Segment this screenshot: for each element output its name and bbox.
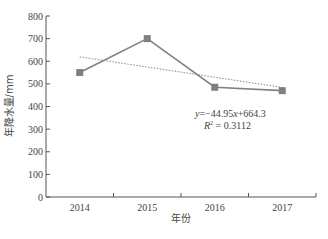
y-axis-ticks: 0100200300400500600700800 <box>28 11 50 203</box>
data-point-marker <box>211 84 218 91</box>
x-axis-title: 年份 <box>171 212 191 224</box>
x-tick-label: 2015 <box>137 202 157 213</box>
y-axis-title: 年降水量/mm <box>3 75 15 138</box>
x-tick-label: 2017 <box>272 202 292 213</box>
data-point-marker <box>144 35 151 42</box>
series-markers <box>76 35 286 94</box>
x-axis-ticks: 2014201520162017 <box>70 193 316 213</box>
y-tick-label: 400 <box>28 101 43 112</box>
y-tick-label: 600 <box>28 56 43 67</box>
data-point-marker <box>76 69 83 76</box>
trendline <box>80 57 283 88</box>
line-chart: 0100200300400500600700800 20142015201620… <box>0 0 328 239</box>
y-tick-label: 300 <box>28 124 43 135</box>
data-point-marker <box>279 87 286 94</box>
x-tick-label: 2016 <box>205 202 225 213</box>
y-tick-label: 100 <box>28 169 43 180</box>
r-squared-label: R2 = 0.3112 <box>203 120 251 131</box>
y-tick-label: 800 <box>28 11 43 22</box>
y-tick-label: 0 <box>38 192 43 203</box>
y-tick-label: 700 <box>28 33 43 44</box>
x-tick-label: 2014 <box>70 202 90 213</box>
y-tick-label: 200 <box>28 146 43 157</box>
trend-equation: y=−44.95x+664.3 <box>194 108 266 119</box>
y-tick-label: 500 <box>28 78 43 89</box>
